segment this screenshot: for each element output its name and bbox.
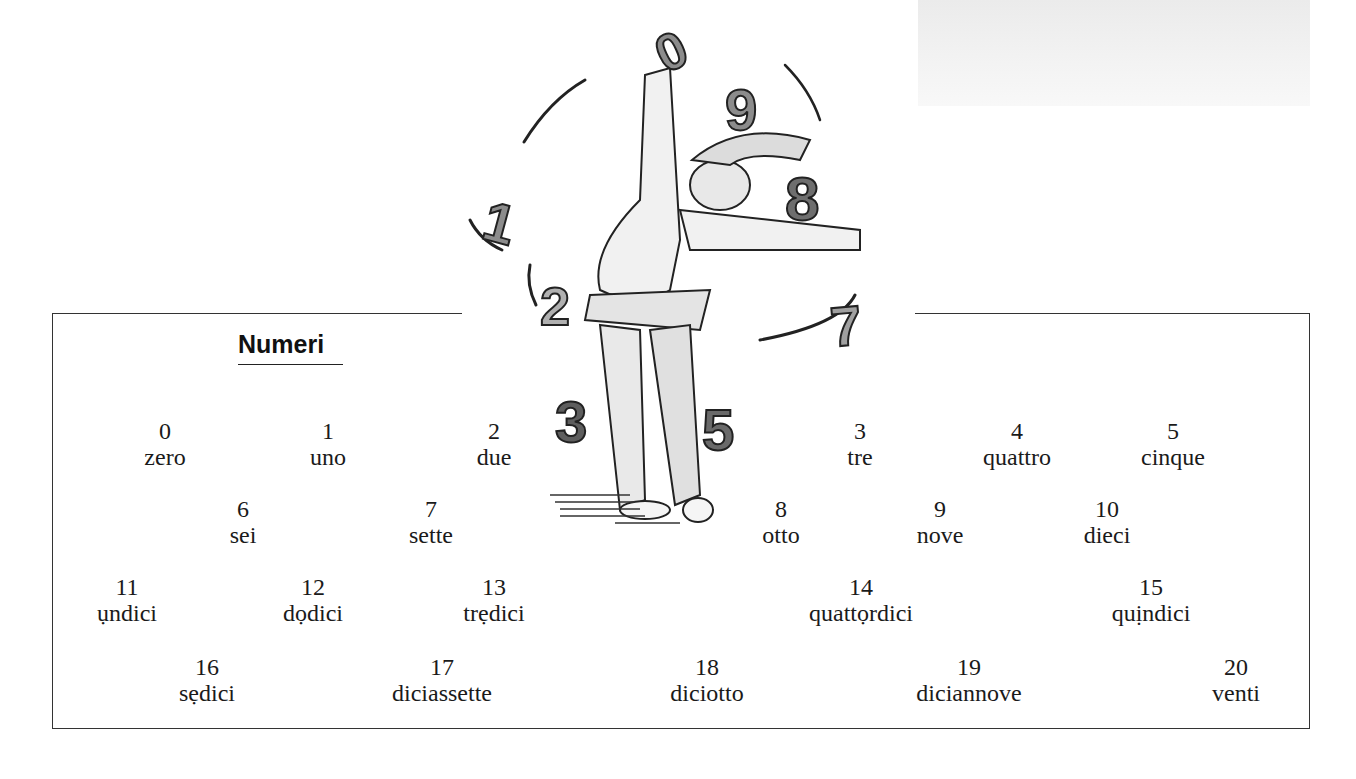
number-digit: 20 <box>1212 654 1260 680</box>
number-item: 20venti <box>1212 654 1260 706</box>
number-item: 19diciannove <box>916 654 1021 706</box>
number-word: diciannove <box>916 680 1021 706</box>
number-item: 15quịndici <box>1112 574 1191 626</box>
svg-text:3: 3 <box>555 389 587 454</box>
number-digit: 1 <box>310 418 346 444</box>
number-word: quịndici <box>1112 600 1191 626</box>
number-word: nove <box>917 522 964 548</box>
number-item: 16sẹdici <box>179 654 235 706</box>
number-item: 10dieci <box>1084 496 1131 548</box>
box-border-top-left <box>52 313 462 314</box>
title-underline <box>238 364 343 365</box>
number-word: ụndici <box>97 600 157 626</box>
number-word: zero <box>144 444 185 470</box>
jester-juggling-illustration: 0 9 8 1 2 7 3 5 <box>440 0 920 660</box>
number-word: sei <box>230 522 257 548</box>
number-digit: 10 <box>1084 496 1131 522</box>
box-border-bottom <box>52 728 1310 729</box>
section-title: Numeri <box>238 330 324 359</box>
number-item: 4quattro <box>983 418 1051 470</box>
number-item: 6sei <box>230 496 257 548</box>
box-border-left <box>52 313 53 728</box>
number-word: dọdici <box>283 600 343 626</box>
number-item: 5cinque <box>1141 418 1205 470</box>
svg-text:8: 8 <box>785 164 819 233</box>
svg-text:5: 5 <box>702 397 734 462</box>
box-border-top-right <box>915 313 1310 314</box>
number-digit: 0 <box>144 418 185 444</box>
number-item: 18diciotto <box>670 654 743 706</box>
number-digit: 6 <box>230 496 257 522</box>
number-digit: 19 <box>916 654 1021 680</box>
number-digit: 15 <box>1112 574 1191 600</box>
number-digit: 12 <box>283 574 343 600</box>
number-word: diciotto <box>670 680 743 706</box>
svg-text:9: 9 <box>725 77 757 142</box>
number-word: uno <box>310 444 346 470</box>
number-word: dieci <box>1084 522 1131 548</box>
svg-text:1: 1 <box>476 188 522 257</box>
number-digit: 16 <box>179 654 235 680</box>
scan-shadow <box>918 0 1310 106</box>
number-digit: 11 <box>97 574 157 600</box>
number-digit: 9 <box>917 496 964 522</box>
number-digit: 4 <box>983 418 1051 444</box>
svg-text:2: 2 <box>540 276 570 336</box>
box-border-right <box>1309 313 1310 728</box>
number-item: 0zero <box>144 418 185 470</box>
number-word: venti <box>1212 680 1260 706</box>
number-item: 11ụndici <box>97 574 157 626</box>
number-word: diciassette <box>392 680 492 706</box>
number-word: cinque <box>1141 444 1205 470</box>
number-word: sẹdici <box>179 680 235 706</box>
number-item: 9nove <box>917 496 964 548</box>
number-item: 17diciassette <box>392 654 492 706</box>
number-digit: 5 <box>1141 418 1205 444</box>
number-item: 12dọdici <box>283 574 343 626</box>
number-word: quattro <box>983 444 1051 470</box>
svg-text:7: 7 <box>828 293 865 358</box>
number-item: 1uno <box>310 418 346 470</box>
